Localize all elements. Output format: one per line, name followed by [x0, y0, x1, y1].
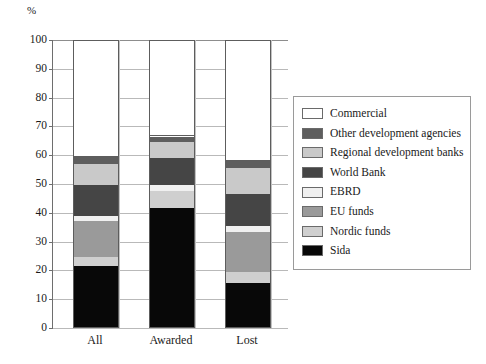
chart-legend: CommercialOther development agenciesRegi… — [293, 96, 471, 270]
legend-swatch-nordic — [302, 226, 323, 237]
y-tick-mark-0 — [49, 328, 53, 329]
bar-segment-all-nordic[interactable] — [73, 257, 119, 266]
y-tick-label-60: 60 — [7, 149, 47, 161]
vertical-gridline-All-right — [119, 40, 120, 328]
y-tick-label-30: 30 — [7, 236, 47, 248]
bar-segment-awarded-regional[interactable] — [149, 142, 195, 158]
bar-segment-awarded-otherdev[interactable] — [149, 137, 195, 143]
legend-item-sida[interactable]: Sida — [302, 241, 463, 261]
bar-segment-lost-otherdev[interactable] — [225, 161, 271, 168]
y-tick-label-80: 80 — [7, 92, 47, 104]
legend-label-regional: Regional development banks — [330, 147, 464, 159]
y-tick-mark-10 — [49, 299, 53, 300]
bar-segment-awarded-worldbank[interactable] — [149, 158, 195, 185]
x-axis-label-lost: Lost — [207, 333, 287, 348]
y-tick-mark-70 — [49, 126, 53, 127]
y-axis-unit-label: % — [27, 4, 36, 16]
bar-segment-awarded-sida[interactable] — [149, 208, 195, 328]
y-tick-mark-100 — [49, 40, 53, 41]
y-tick-label-40: 40 — [7, 207, 47, 219]
y-tick-label-20: 20 — [7, 264, 47, 276]
bar-lost[interactable] — [225, 40, 271, 328]
legend-item-commercial[interactable]: Commercial — [302, 104, 463, 124]
bar-segment-awarded-ebrd[interactable] — [149, 185, 195, 191]
chart-figure: % 0102030405060708090100 AllAwardedLost … — [0, 0, 486, 364]
vertical-gridline-Awarded-right — [195, 40, 196, 328]
bar-segment-lost-sida[interactable] — [225, 283, 271, 328]
legend-item-otherdev[interactable]: Other development agencies — [302, 124, 463, 144]
legend-label-otherdev: Other development agencies — [330, 128, 461, 140]
y-tick-label-90: 90 — [7, 63, 47, 75]
legend-item-ebrd[interactable]: EBRD — [302, 182, 463, 202]
bar-segment-lost-worldbank[interactable] — [225, 194, 271, 226]
bar-segment-lost-nordic[interactable] — [225, 272, 271, 284]
y-tick-label-10: 10 — [7, 293, 47, 305]
legend-swatch-eufunds — [302, 206, 323, 217]
plot-area: 0102030405060708090100 — [52, 40, 281, 329]
y-tick-mark-50 — [49, 184, 53, 185]
bar-segment-all-worldbank[interactable] — [73, 185, 119, 215]
bar-segment-awarded-nordic[interactable] — [149, 191, 195, 208]
bar-segment-all-sida[interactable] — [73, 266, 119, 328]
y-tick-label-70: 70 — [7, 120, 47, 132]
legend-swatch-sida — [302, 245, 323, 256]
bar-segment-all-regional[interactable] — [73, 164, 119, 186]
bar-awarded[interactable] — [149, 40, 195, 328]
legend-item-regional[interactable]: Regional development banks — [302, 143, 463, 163]
y-tick-label-0: 0 — [7, 322, 47, 334]
bar-segment-lost-commercial[interactable] — [225, 40, 271, 161]
y-tick-mark-30 — [49, 242, 53, 243]
bar-segment-lost-eufunds[interactable] — [225, 232, 271, 272]
legend-label-sida: Sida — [330, 245, 350, 257]
legend-item-eufunds[interactable]: EU funds — [302, 202, 463, 222]
x-axis-label-all: All — [55, 333, 135, 348]
bar-all[interactable] — [73, 40, 119, 328]
vertical-gridline-Lost-right — [271, 40, 272, 328]
legend-item-nordic[interactable]: Nordic funds — [302, 222, 463, 242]
bar-segment-all-commercial[interactable] — [73, 40, 119, 157]
legend-label-ebrd: EBRD — [330, 186, 361, 198]
bar-segment-all-otherdev[interactable] — [73, 157, 119, 164]
bar-segment-all-eufunds[interactable] — [73, 221, 119, 257]
y-tick-mark-40 — [49, 213, 53, 214]
legend-label-eufunds: EU funds — [330, 206, 374, 218]
bar-segment-lost-regional[interactable] — [225, 168, 271, 194]
y-tick-mark-80 — [49, 98, 53, 99]
legend-label-worldbank: World Bank — [330, 167, 386, 179]
legend-swatch-otherdev — [302, 128, 323, 139]
y-tick-label-50: 50 — [7, 178, 47, 190]
legend-swatch-worldbank — [302, 167, 323, 178]
legend-item-worldbank[interactable]: World Bank — [302, 163, 463, 183]
legend-swatch-regional — [302, 147, 323, 158]
legend-label-nordic: Nordic funds — [330, 226, 390, 238]
bar-segment-all-ebrd[interactable] — [73, 216, 119, 222]
bar-segment-lost-ebrd[interactable] — [225, 226, 271, 232]
legend-label-commercial: Commercial — [330, 108, 387, 120]
legend-swatch-ebrd — [302, 187, 323, 198]
y-tick-mark-20 — [49, 270, 53, 271]
y-tick-mark-90 — [49, 69, 53, 70]
y-tick-mark-60 — [49, 155, 53, 156]
legend-swatch-commercial — [302, 108, 323, 119]
y-tick-label-100: 100 — [7, 34, 47, 46]
bar-segment-awarded-commercial[interactable] — [149, 40, 195, 136]
x-axis-label-awarded: Awarded — [131, 333, 211, 348]
gridline-0 — [53, 328, 288, 329]
